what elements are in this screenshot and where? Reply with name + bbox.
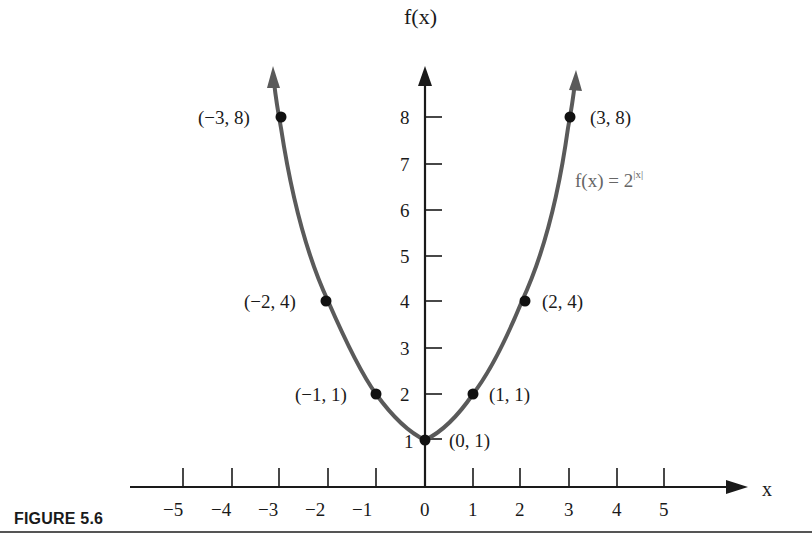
point-label-m2: (−2, 4) <box>244 292 296 311</box>
x-tick-label-2: 2 <box>515 500 525 519</box>
x-ticks <box>183 468 664 487</box>
x-tick-label-1: 1 <box>468 500 478 519</box>
x-tick-label-0: 0 <box>420 500 430 519</box>
point-m3 <box>276 112 287 123</box>
x-tick-label-5: 5 <box>659 500 669 519</box>
x-tick-label-m3: −3 <box>258 500 278 519</box>
x-tick-label-3: 3 <box>564 500 574 519</box>
x-tick-label-4: 4 <box>612 500 622 519</box>
point-label-m3: (−3, 8) <box>198 108 250 127</box>
divider-rule <box>0 531 812 533</box>
point-1 <box>468 389 479 400</box>
point-label-1: (1, 1) <box>489 385 530 404</box>
equation-main: f(x) = 2 <box>575 170 633 191</box>
y-ticks <box>425 117 442 439</box>
y-tick-label-6: 6 <box>400 201 410 220</box>
y-tick-label-3: 3 <box>400 339 410 358</box>
y-axis-arrow-icon <box>418 66 432 86</box>
plot-area <box>0 0 812 558</box>
y-tick-label-4: 4 <box>400 292 410 311</box>
x-tick-label-m4: −4 <box>211 500 231 519</box>
figure-caption: FIGURE 5.6 <box>14 510 103 528</box>
x-axis-label: x <box>762 478 772 501</box>
point-label-2: (2, 4) <box>542 292 583 311</box>
y-tick-label-7: 7 <box>400 155 410 174</box>
y-tick-label-8: 8 <box>400 108 410 127</box>
y-tick-label-5: 5 <box>400 247 410 266</box>
point-label-m1: (−1, 1) <box>295 385 347 404</box>
y-axis-label: f(x) <box>404 4 437 30</box>
point-label-3: (3, 8) <box>590 108 631 127</box>
point-3 <box>565 112 576 123</box>
x-tick-label-m1: −1 <box>352 500 372 519</box>
point-2 <box>520 296 531 307</box>
point-0 <box>420 435 431 446</box>
y-tick-label-1: 1 <box>404 432 414 451</box>
x-tick-label-m2: −2 <box>305 500 325 519</box>
point-m2 <box>321 296 332 307</box>
point-m1 <box>371 389 382 400</box>
y-tick-label-2: 2 <box>400 385 410 404</box>
point-label-0: (0, 1) <box>449 431 490 450</box>
x-axis-arrow-icon <box>726 480 748 494</box>
x-tick-label-m5: −5 <box>163 500 183 519</box>
equation-exponent: |x| <box>633 168 643 180</box>
curve-arrow-right-icon <box>569 70 582 91</box>
curve-arrow-left-icon <box>267 66 280 88</box>
equation-label: f(x) = 2|x| <box>575 170 643 192</box>
